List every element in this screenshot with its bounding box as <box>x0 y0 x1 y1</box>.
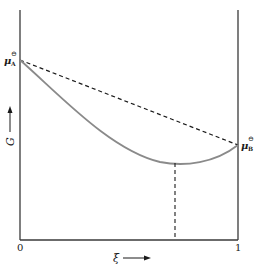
svg-text:G: G <box>4 137 17 146</box>
g-axis-label: G <box>4 106 17 146</box>
svg-text:⊖: ⊖ <box>11 50 17 58</box>
svg-text:B: B <box>248 145 253 152</box>
svg-text:⊖: ⊖ <box>248 135 254 143</box>
xi-axis-label: ξ <box>113 252 151 265</box>
x-tick-1: 1 <box>235 242 241 253</box>
ideal-mixing-dashed-line <box>20 60 238 145</box>
svg-text:ξ: ξ <box>113 252 120 265</box>
mu-a-label: μ A ⊖ <box>4 50 17 67</box>
gibbs-energy-diagram: μ A ⊖ μ B ⊖ G 0 1 ξ <box>0 0 258 270</box>
svg-text:A: A <box>10 60 16 67</box>
x-tick-0: 0 <box>17 242 23 253</box>
mu-b-label: μ B ⊖ <box>241 135 254 152</box>
gibbs-energy-curve <box>20 60 238 164</box>
